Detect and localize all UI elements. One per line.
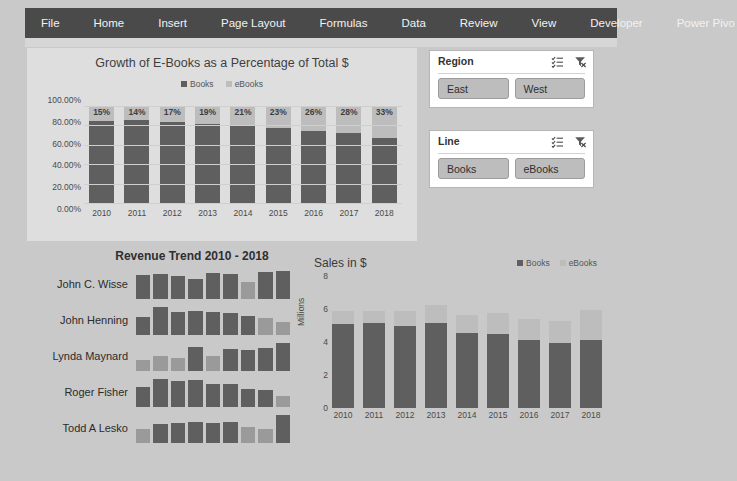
ribbon-tab-formulas[interactable]: Formulas: [318, 17, 370, 29]
sales-bar-spacer: [425, 276, 447, 305]
sparkline-bar: [223, 313, 237, 335]
sales-bar-spacer: [487, 276, 509, 313]
sales-chart-axis-label: Millions: [296, 298, 306, 326]
sales-bar: [487, 276, 509, 408]
sales-bar-spacer: [332, 276, 354, 311]
ribbon-tab-power-pivot[interactable]: Power Pivo: [675, 17, 737, 29]
growth-bar-segment-ebooks: 17%: [160, 106, 185, 122]
slicer-line-buttons[interactable]: Books eBooks: [438, 158, 585, 179]
slicer-region-item-east[interactable]: East: [438, 78, 509, 99]
slicer-region-buttons[interactable]: East West: [438, 78, 585, 99]
multi-select-icon[interactable]: [551, 54, 564, 72]
sparkline-bar: [136, 360, 150, 371]
legend-item-books: Books: [181, 79, 214, 89]
sales-chart-x-axis: 201020112012201320142015201620172018: [332, 410, 602, 420]
sales-x-tick: 2013: [425, 410, 447, 420]
slicer-region[interactable]: Region East: [429, 50, 594, 108]
sparkline-bar: [153, 274, 167, 299]
sparkline-bar: [188, 311, 202, 335]
growth-bar: 14%: [124, 106, 149, 203]
sales-bar-spacer: [580, 276, 602, 310]
growth-bar-segment-books: [266, 128, 291, 203]
sales-bar-segment-books: [394, 326, 416, 408]
sparkline-bar: [258, 390, 272, 407]
legend-swatch-ebooks: [226, 81, 232, 87]
sales-bar-segment-ebooks: [456, 315, 478, 333]
growth-chart-x-axis: 201020112012201320142015201620172018: [84, 208, 402, 218]
sparkline-bar: [276, 271, 290, 299]
legend-swatch-ebooks: [560, 260, 566, 266]
slicer-line-item-books[interactable]: Books: [438, 158, 509, 179]
growth-bar-segment-ebooks: 28%: [336, 106, 361, 133]
sparkline-bar: [136, 429, 150, 443]
revenue-trend-panel[interactable]: Revenue Trend 2010 - 2018 John C. WisseJ…: [20, 245, 290, 460]
sparkline-bars: [136, 305, 290, 335]
sparkline-bars: [136, 341, 290, 371]
sales-chart[interactable]: Sales in $ Books eBooks Millions 02468 2…: [296, 250, 611, 455]
growth-x-tick: 2016: [301, 208, 326, 218]
sales-bar-segment-ebooks: [425, 305, 447, 323]
sparkline-row-label: Roger Fisher: [20, 386, 136, 398]
sales-x-tick: 2018: [580, 410, 602, 420]
ribbon-tab-home[interactable]: Home: [92, 17, 127, 29]
sparkline-bar: [171, 423, 185, 443]
sales-chart-title: Sales in $: [314, 256, 367, 270]
legend-swatch-books: [181, 81, 187, 87]
ribbon-tab-file[interactable]: File: [39, 17, 62, 29]
sales-bar-segment-ebooks: [394, 311, 416, 326]
slicer-line-icons[interactable]: [551, 134, 587, 152]
sales-bar-spacer: [456, 276, 478, 315]
slicer-line-item-ebooks[interactable]: eBooks: [515, 158, 586, 179]
ribbon-tab-data[interactable]: Data: [400, 17, 428, 29]
sales-bar: [332, 276, 354, 408]
clear-filter-icon[interactable]: [574, 134, 587, 152]
growth-x-tick: 2010: [89, 208, 114, 218]
ribbon-tab-bar[interactable]: File Home Insert Page Layout Formulas Da…: [25, 8, 617, 38]
sparkline-bar: [241, 316, 255, 335]
legend-item-books: Books: [517, 258, 550, 268]
growth-bar: 17%: [160, 106, 185, 203]
sales-y-tick: 6: [323, 304, 328, 314]
growth-y-tick: 40.00%: [52, 160, 81, 170]
sales-bar-segment-books: [580, 340, 602, 408]
sales-bar: [549, 276, 571, 408]
sales-x-tick: 2015: [487, 410, 509, 420]
growth-chart-bars: 15%14%17%19%21%23%26%28%33%: [84, 106, 402, 203]
growth-bar: 15%: [89, 106, 114, 203]
ribbon-tab-review[interactable]: Review: [458, 17, 500, 29]
sales-y-tick: 4: [323, 337, 328, 347]
ribbon-tab-developer[interactable]: Developer: [588, 17, 644, 29]
ribbon-divider: [25, 38, 617, 47]
growth-chart-y-axis: 0.00%20.00%40.00%60.00%80.00%100.00%: [31, 100, 81, 209]
sales-bar-segment-books: [332, 324, 354, 408]
sparkline-bar: [153, 424, 167, 443]
sales-bar-spacer: [394, 276, 416, 311]
slicer-region-item-west[interactable]: West: [515, 78, 586, 99]
sparkline-bar: [153, 307, 167, 335]
gridline: [84, 125, 402, 126]
sales-x-tick: 2016: [518, 410, 540, 420]
growth-bar-data-label: 33%: [372, 107, 397, 117]
slicer-region-icons[interactable]: [551, 54, 587, 72]
growth-bar-data-label: 26%: [301, 107, 326, 117]
sparkline-bars: [136, 377, 290, 407]
slicer-line[interactable]: Line Books: [429, 130, 594, 188]
sparkline-bar: [136, 387, 150, 407]
growth-bar-segment-ebooks: 26%: [301, 106, 326, 131]
growth-bar-segment-ebooks: 19%: [195, 106, 220, 124]
ribbon-tab-page-layout[interactable]: Page Layout: [219, 17, 288, 29]
sparkline-bar: [153, 379, 167, 407]
sales-chart-y-axis: 02468: [306, 276, 328, 408]
ribbon-tab-view[interactable]: View: [530, 17, 559, 29]
sales-bar-segment-ebooks: [518, 319, 540, 340]
sales-x-tick: 2017: [549, 410, 571, 420]
sales-bar-segment-books: [363, 323, 385, 408]
growth-bar: 33%: [372, 106, 397, 203]
legend-item-ebooks: eBooks: [560, 258, 597, 268]
clear-filter-icon[interactable]: [574, 54, 587, 72]
ribbon-tab-insert[interactable]: Insert: [156, 17, 189, 29]
sales-chart-plot: [332, 276, 602, 408]
growth-percent-chart[interactable]: Growth of E-Books as a Percentage of Tot…: [27, 48, 417, 241]
multi-select-icon[interactable]: [551, 134, 564, 152]
sales-bar-segment-ebooks: [332, 311, 354, 324]
